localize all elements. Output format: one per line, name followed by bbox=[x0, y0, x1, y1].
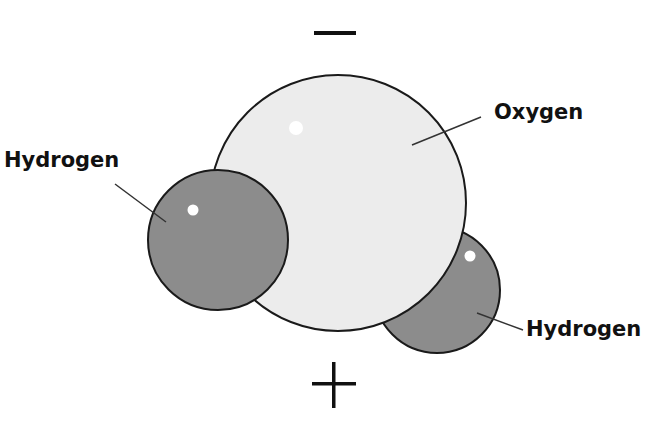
highlight-dot bbox=[465, 251, 476, 262]
label-hydrogen-left: Hydrogen bbox=[4, 148, 119, 172]
highlight-dot bbox=[289, 121, 303, 135]
label-oxygen: Oxygen bbox=[494, 100, 583, 124]
hydrogen-atom-left bbox=[148, 170, 288, 310]
highlight-dot bbox=[188, 205, 199, 216]
positive-charge-sign bbox=[312, 362, 356, 408]
negative-charge-sign bbox=[314, 31, 356, 35]
water-molecule-diagram: Hydrogen Oxygen Hydrogen bbox=[0, 0, 670, 442]
label-hydrogen-right: Hydrogen bbox=[526, 317, 641, 341]
molecule-drawing bbox=[0, 0, 670, 442]
